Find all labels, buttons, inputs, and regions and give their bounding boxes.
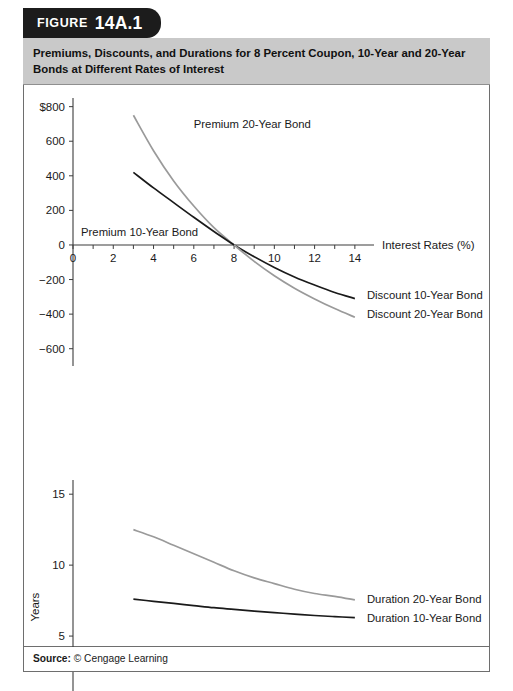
svg-text:Duration 20-Year Bond: Duration 20-Year Bond [367, 593, 482, 605]
svg-text:0: 0 [70, 252, 76, 264]
svg-text:Discount 10-Year Bond: Discount 10-Year Bond [367, 289, 483, 301]
svg-text:Discount 20-Year Bond: Discount 20-Year Bond [367, 308, 483, 320]
figure-badge: FIGURE 14A.1 [23, 8, 161, 38]
figure-container: FIGURE 14A.1 Premiums, Discounts, and Du… [0, 0, 513, 691]
svg-text:15: 15 [52, 488, 65, 500]
svg-text:10: 10 [52, 559, 65, 571]
svg-text:400: 400 [46, 170, 65, 182]
svg-text:5: 5 [59, 630, 65, 642]
svg-text:600: 600 [46, 135, 65, 147]
svg-text:$800: $800 [39, 101, 65, 113]
source-bar: Source: © Cengage Learning [23, 647, 490, 672]
source-text: Source: © Cengage Learning [33, 653, 168, 664]
source-prefix: Source: [33, 653, 71, 664]
figure-badge-label: FIGURE [37, 16, 88, 30]
figure-title: Premiums, Discounts, and Durations for 8… [33, 46, 483, 77]
duration-chart: 0246810121451015Interest Rates (%)YearsD… [24, 382, 491, 647]
svg-text:8: 8 [231, 252, 237, 264]
svg-text:0: 0 [59, 239, 65, 251]
svg-text:14: 14 [348, 252, 361, 264]
svg-text:12: 12 [308, 252, 321, 264]
svg-text:−600: −600 [39, 343, 65, 355]
svg-text:Years: Years [29, 592, 41, 621]
svg-text:Premium 20-Year Bond: Premium 20-Year Bond [194, 118, 311, 130]
chart-panel: 02468101214−600−400−2000200400600$800Int… [23, 85, 490, 647]
svg-text:2: 2 [110, 252, 116, 264]
svg-text:6: 6 [191, 252, 197, 264]
svg-text:Premium 10-Year Bond: Premium 10-Year Bond [81, 226, 198, 238]
svg-text:−200: −200 [39, 274, 65, 286]
svg-text:200: 200 [46, 204, 65, 216]
source-credit: © Cengage Learning [74, 653, 168, 664]
figure-title-band: Premiums, Discounts, and Durations for 8… [23, 38, 490, 85]
figure-badge-number: 14A.1 [95, 13, 143, 34]
svg-text:−400: −400 [39, 308, 65, 320]
svg-text:Interest Rates (%): Interest Rates (%) [382, 239, 475, 251]
svg-text:10: 10 [268, 252, 281, 264]
svg-text:Duration 10-Year Bond: Duration 10-Year Bond [367, 612, 482, 624]
premium-discount-chart: 02468101214−600−400−2000200400600$800Int… [24, 85, 491, 385]
svg-text:4: 4 [150, 252, 157, 264]
